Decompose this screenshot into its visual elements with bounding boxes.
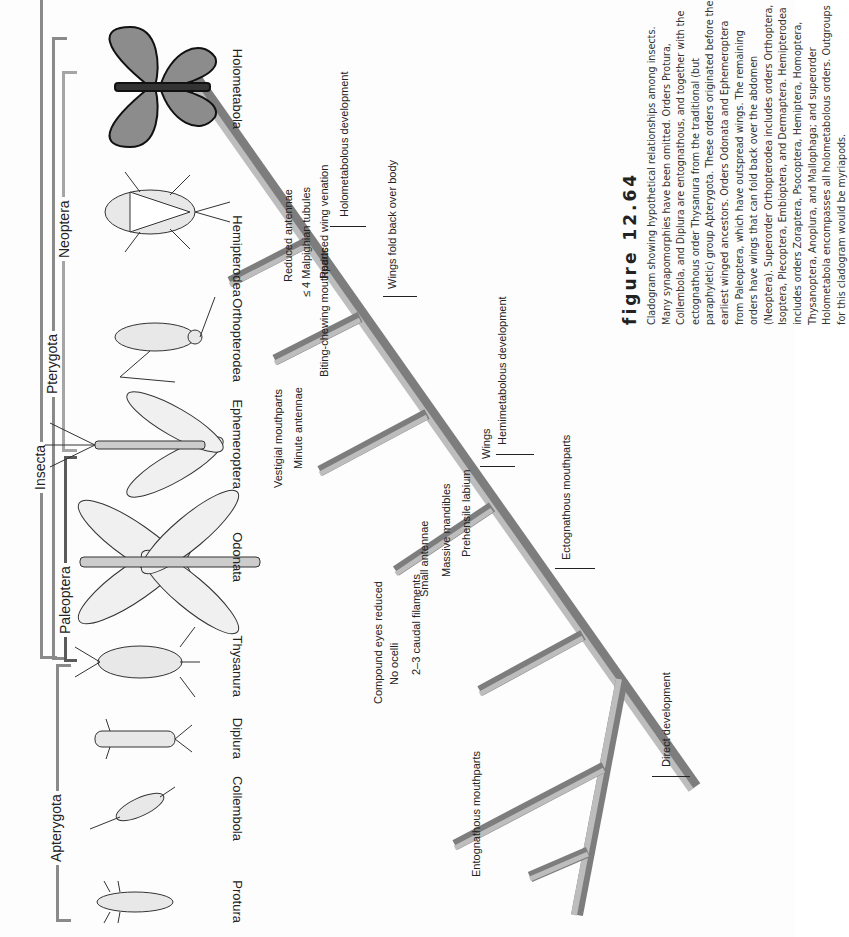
char-reduced-antennae: Reduced antennae [282, 189, 294, 282]
tick-wings-fold [383, 296, 417, 297]
figure-caption: Cladogram showing hypothetical relations… [645, 0, 849, 325]
proturan-icon [97, 881, 173, 923]
tick-hemimetabolous [496, 454, 534, 455]
char-malpighian-tubules: ≤ 4 Malpighian tubules [300, 187, 312, 297]
taxon-label-holometabola: Holometabola [230, 49, 245, 129]
taxon-label-diplura: Diplura [230, 718, 245, 759]
taxon-label-ephemeroptera: Ephemeroptera [230, 399, 245, 489]
char-holometabolous-development: Holometabolous development [338, 71, 350, 217]
char-wings-fold-back: Wings fold back over body [386, 160, 398, 289]
char-small-antennae: Small antennae [418, 521, 430, 597]
true-bug-icon [105, 172, 230, 252]
tick-direct-development [652, 776, 690, 777]
dipluran-icon [95, 719, 192, 759]
taxon-label-collembola: Collembola [230, 776, 245, 841]
figure-title: figure 12.64 [620, 172, 640, 325]
silverfish-icon [75, 627, 200, 697]
butterfly-icon [110, 27, 216, 147]
tick-ectognathous [555, 568, 595, 569]
char-ectognathous-mouthparts: Ectognathous mouthparts [560, 435, 572, 560]
taxon-label-odonata: Odonata [230, 532, 245, 582]
tick-wings [480, 466, 515, 467]
char-reduced-wing-venation: Reduced wing venation [318, 165, 330, 279]
mayfly-icon [45, 382, 230, 506]
taxon-label-orthopterodea: Orthopterodea [230, 298, 245, 382]
tick-holometabolous [330, 226, 366, 227]
char-wings: Wings [480, 428, 492, 459]
char-prehensile-labium: Prehensile labium [460, 470, 472, 557]
char-direct-development: Direct development [660, 672, 672, 767]
char-vestigial-mouthparts: Vestigial mouthparts [272, 389, 284, 488]
char-entognathous-mouthparts: Entognathous mouthparts [470, 751, 482, 877]
grasshopper-icon [115, 297, 215, 382]
taxon-label-thysanura: Thysanura [230, 636, 245, 697]
char-compound-eyes-reduced: Compound eyes reduced [372, 581, 384, 704]
taxon-label-protura: Protura [230, 880, 245, 923]
taxon-label-hemipterodea: Hemipterodea [230, 215, 245, 297]
char-hemimetabolous-development: Hemimetabolous development [496, 296, 508, 445]
char-no-ocelli: No ocelli [388, 643, 400, 685]
char-minute-antennae: Minute antennae [292, 387, 304, 469]
char-massive-mandibles: Massive mandibles [440, 483, 452, 577]
springtail-icon [90, 787, 175, 829]
